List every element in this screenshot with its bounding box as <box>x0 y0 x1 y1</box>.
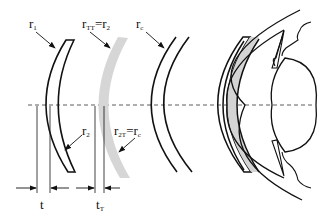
gray-lens-shape <box>98 37 130 178</box>
r2T-arrow <box>119 138 135 152</box>
label-r2T-eq-rc: r2T=rc <box>114 124 141 139</box>
label-rTT-eq-r2: rTT=r2 <box>82 17 110 32</box>
label-t: t <box>40 198 44 211</box>
r1-arrow <box>36 32 55 48</box>
label-r2: r2 <box>82 124 90 139</box>
rTT-arrow <box>90 32 110 48</box>
rc-arrow <box>146 32 164 48</box>
diagram-svg <box>0 0 331 217</box>
label-r1: r1 <box>29 17 37 32</box>
label-tT: tT <box>96 198 104 213</box>
sclera-lower <box>282 152 311 188</box>
label-rc: rc <box>136 17 143 32</box>
iris-lower-wedge <box>272 140 284 176</box>
r2-arrow <box>65 135 82 150</box>
lens-diagram: r1 rTT=r2 rc r2 r2T=rc t tT <box>0 0 331 217</box>
sclera-upper <box>282 22 311 56</box>
lens-3-inner-arc <box>164 37 192 172</box>
eye-gray-lens <box>227 37 259 172</box>
